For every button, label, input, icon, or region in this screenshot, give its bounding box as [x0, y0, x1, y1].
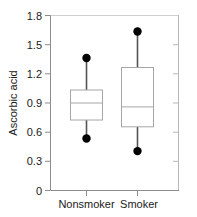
x-label-nonsmoker: Nonsmoker — [58, 198, 115, 210]
upper-extreme-marker-nonsmoker — [82, 54, 90, 62]
y-tick-label-1.2: 1.2 — [27, 68, 42, 80]
boxplot-nonsmoker — [71, 54, 103, 143]
lower-extreme-marker-smoker — [133, 147, 141, 155]
box-nonsmoker — [71, 90, 103, 120]
y-tick-label-0: 0 — [36, 185, 42, 197]
lower-extreme-marker-nonsmoker — [82, 134, 90, 142]
box-smoker — [122, 68, 154, 127]
plot-canvas: 1.8 1.5 1.2 0.9 0.6 0.3 0 Ascorbic acid … — [0, 0, 197, 217]
x-label-smoker: Smoker — [120, 198, 158, 210]
boxplot-smoker — [122, 27, 154, 155]
y-tick-label-0.3: 0.3 — [27, 155, 42, 167]
y-tick-label-0.6: 0.6 — [27, 126, 42, 138]
upper-extreme-marker-smoker — [133, 27, 141, 35]
boxplot-figure: 1.8 1.5 1.2 0.9 0.6 0.3 0 Ascorbic acid … — [0, 0, 197, 217]
y-axis-title: Ascorbic acid — [7, 70, 19, 135]
y-tick-label-0.9: 0.9 — [27, 97, 42, 109]
y-tick-label-1.8: 1.8 — [27, 10, 42, 22]
y-tick-label-1.5: 1.5 — [27, 39, 42, 51]
